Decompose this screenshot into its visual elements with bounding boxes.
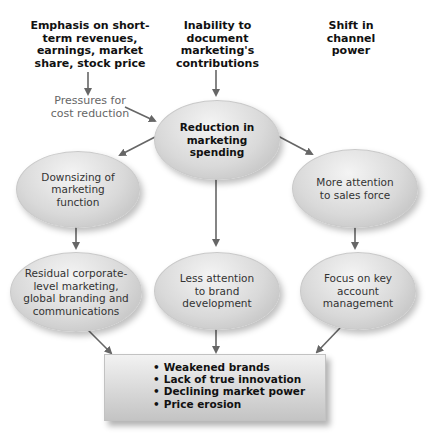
outcome-item: Lack of true innovation xyxy=(153,373,305,385)
text-line: management xyxy=(323,297,393,310)
text-line: function xyxy=(41,196,114,209)
text-line: Focus on key xyxy=(323,272,393,285)
text-line: Shift in xyxy=(318,20,384,33)
outcomes-box: Weakened brands Lack of true innovation … xyxy=(104,354,326,421)
node-downsizing-of-marketing-function: Downsizing of marketing function xyxy=(16,151,140,228)
text-line: global branding and xyxy=(23,292,128,305)
text-line: contributions xyxy=(170,58,265,71)
text-line: Reduction in xyxy=(180,121,254,134)
node-more-attention-to-sales-force: More attention to sales force xyxy=(292,149,418,228)
text-line: marketing xyxy=(41,183,114,196)
text-line: earnings, market xyxy=(30,45,150,58)
text-line: level marketing, xyxy=(23,280,128,293)
cause-emphasis: Emphasis on short- term revenues, earnin… xyxy=(30,20,150,70)
text-line: marketing's xyxy=(170,45,265,58)
node-focus-on-key-account-management: Focus on key account management xyxy=(300,252,416,330)
text-line: spending xyxy=(180,146,254,159)
text-line: account xyxy=(323,285,393,298)
text-line: More attention xyxy=(316,176,393,189)
text-line: Downsizing of xyxy=(41,171,114,184)
text-line: cost reduction xyxy=(48,108,132,121)
text-line: share, stock price xyxy=(30,58,150,71)
node-reduction-in-marketing-spending: Reduction in marketing spending xyxy=(154,100,280,180)
text-line: Emphasis on short- xyxy=(30,20,150,33)
text-line: communications xyxy=(23,305,128,318)
arrow-reduction-to-sales-force xyxy=(276,135,312,154)
arrow-reduction-to-downsizing xyxy=(120,137,155,155)
cause-inability: Inability to document marketing's contri… xyxy=(170,20,265,70)
text-line: power xyxy=(318,45,384,58)
arrow-key-account-to-outcomes xyxy=(317,328,340,352)
node-less-attention-to-brand-development: Less attention to brand development xyxy=(154,252,280,330)
text-line: marketing xyxy=(180,134,254,147)
outcome-item: Weakened brands xyxy=(153,361,305,373)
text-line: Residual corporate- xyxy=(23,267,128,280)
text-line: Less attention xyxy=(180,272,254,285)
cause-shift: Shift in channel power xyxy=(318,20,384,58)
outcome-item: Declining market power xyxy=(153,385,305,397)
text-line: Pressures for xyxy=(48,95,132,108)
pressures-for-cost-reduction: Pressures for cost reduction xyxy=(48,95,132,120)
arrow-residual-to-outcomes xyxy=(86,328,111,353)
text-line: Inability to xyxy=(170,20,265,33)
text-line: to brand xyxy=(180,285,254,298)
outcomes-list: Weakened brands Lack of true innovation … xyxy=(153,361,305,410)
text-line: development xyxy=(180,297,254,310)
text-line: to sales force xyxy=(316,189,393,202)
node-residual-corporate-level-marketing: Residual corporate- level marketing, glo… xyxy=(10,252,142,332)
outcome-item: Price erosion xyxy=(153,398,305,410)
